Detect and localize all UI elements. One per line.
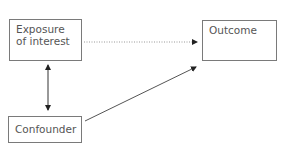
node-exposure-label: Exposure of interest bbox=[16, 23, 70, 47]
node-confounder-label: Confounder bbox=[15, 123, 76, 135]
node-confounder: Confounder bbox=[8, 116, 82, 143]
node-outcome-label: Outcome bbox=[209, 24, 257, 36]
node-outcome: Outcome bbox=[202, 20, 277, 61]
node-exposure: Exposure of interest bbox=[9, 19, 82, 61]
arrow-confounder-to-outcome bbox=[85, 67, 196, 121]
